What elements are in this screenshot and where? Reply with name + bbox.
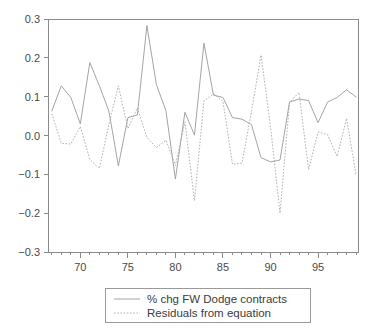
y-tick-label: 0.0: [25, 130, 40, 142]
legend-label-1: Residuals from equation: [147, 307, 271, 319]
y-tick-label: 0.1: [25, 91, 40, 103]
y-tick-label: 0.3: [25, 13, 40, 25]
x-axis-ticks: 707580859095: [52, 252, 356, 273]
y-tick-label: 0.2: [25, 52, 40, 64]
x-tick-label: 75: [122, 261, 134, 273]
data-series-group: [52, 26, 356, 214]
x-tick-label: 70: [74, 261, 86, 273]
x-tick-label: 80: [169, 261, 181, 273]
y-tick-label: −0.1: [18, 168, 40, 180]
y-axis-ticks: 0.30.20.10.0−0.1−0.2−0.3: [18, 13, 48, 258]
y-tick-label: −0.2: [18, 207, 40, 219]
line-chart: 0.30.20.10.0−0.1−0.2−0.3 707580859095 % …: [0, 0, 379, 335]
series-line-residuals-from-equation: [52, 55, 356, 213]
x-tick-label: 95: [312, 261, 324, 273]
legend-label-0: % chg FW Dodge contracts: [147, 293, 287, 305]
chart-page: 0.30.20.10.0−0.1−0.2−0.3 707580859095 % …: [0, 0, 379, 335]
series-line-pct-chg-fw-dodge-contracts: [52, 26, 356, 179]
legend: % chg FW Dodge contracts Residuals from …: [106, 289, 311, 323]
x-tick-label: 85: [217, 261, 229, 273]
y-tick-label: −0.3: [18, 246, 40, 258]
x-tick-label: 90: [264, 261, 276, 273]
